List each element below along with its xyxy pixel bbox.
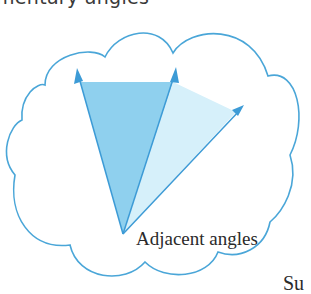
arrowhead-middle-icon bbox=[170, 67, 179, 83]
next-section-heading-partial: Su bbox=[283, 272, 304, 294]
diagram-label: Adjacent angles bbox=[136, 228, 258, 250]
arrowhead-left-icon bbox=[74, 68, 83, 84]
